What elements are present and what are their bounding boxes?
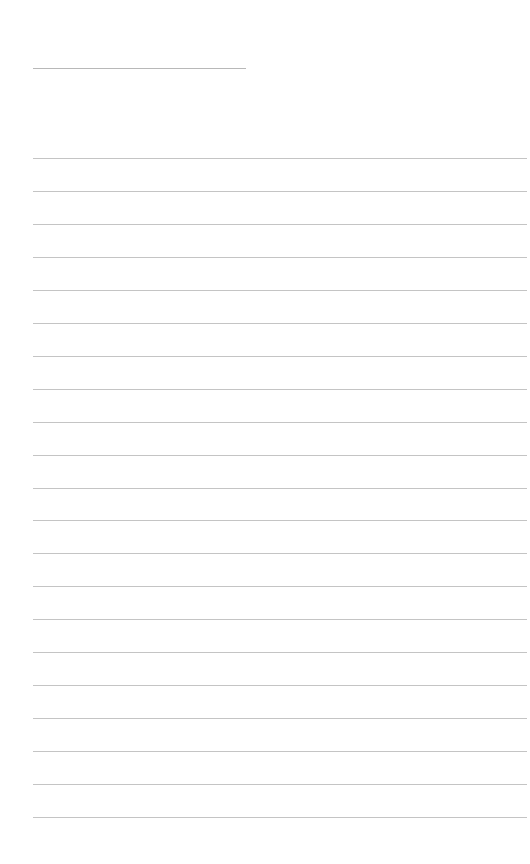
ruled-line	[33, 224, 527, 225]
lined-page	[0, 0, 530, 864]
title-underline	[33, 68, 246, 69]
ruled-line	[33, 718, 527, 719]
ruled-line	[33, 290, 527, 291]
ruled-line	[33, 323, 527, 324]
ruled-line	[33, 422, 527, 423]
ruled-line	[33, 751, 527, 752]
ruled-line	[33, 191, 527, 192]
ruled-line	[33, 784, 527, 785]
ruled-line	[33, 520, 527, 521]
ruled-line	[33, 553, 527, 554]
ruled-line	[33, 455, 527, 456]
ruled-line	[33, 685, 527, 686]
ruled-line	[33, 619, 527, 620]
ruled-line	[33, 158, 527, 159]
ruled-line	[33, 389, 527, 390]
ruled-line	[33, 817, 527, 818]
ruled-line	[33, 257, 527, 258]
ruled-line	[33, 356, 527, 357]
ruled-line	[33, 586, 527, 587]
ruled-line	[33, 488, 527, 489]
ruled-line	[33, 652, 527, 653]
